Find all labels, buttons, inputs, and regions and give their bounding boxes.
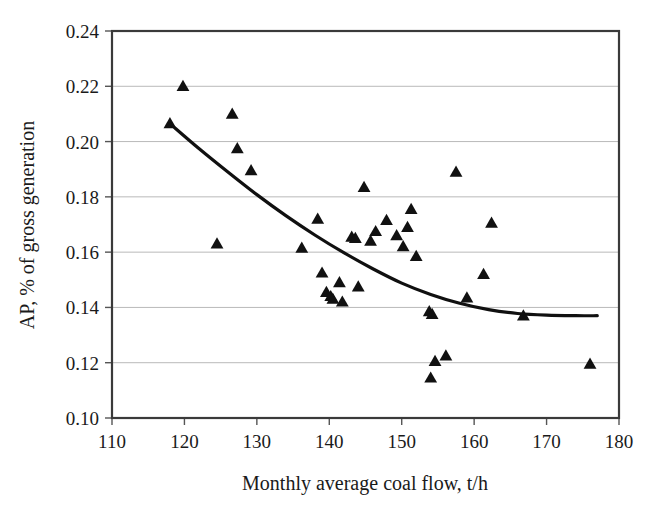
x-tick-label: 170 xyxy=(532,431,561,452)
x-axis-title: Monthly average coal flow, t/h xyxy=(242,472,488,495)
x-tick-label: 150 xyxy=(387,431,416,452)
y-tick-label: 0.18 xyxy=(66,187,99,208)
y-tick-label: 0.20 xyxy=(66,132,99,153)
y-tick-label: 0.22 xyxy=(66,76,99,97)
y-axis-title: AP, % of gross generation xyxy=(16,121,39,329)
x-tick-label: 120 xyxy=(170,431,199,452)
y-tick-label: 0.10 xyxy=(66,408,99,429)
x-tick-label: 160 xyxy=(460,431,489,452)
scatter-chart: 0.100.120.140.160.180.200.220.24 1101201… xyxy=(0,0,657,505)
x-tick-label: 110 xyxy=(98,431,126,452)
y-tick-label: 0.16 xyxy=(66,242,99,263)
y-tick-label: 0.14 xyxy=(66,297,100,318)
x-tick-label: 130 xyxy=(243,431,272,452)
y-tick-label: 0.24 xyxy=(66,21,100,42)
y-tick-label: 0.12 xyxy=(66,353,99,374)
x-tick-label: 180 xyxy=(605,431,634,452)
x-tick-label: 140 xyxy=(315,431,344,452)
